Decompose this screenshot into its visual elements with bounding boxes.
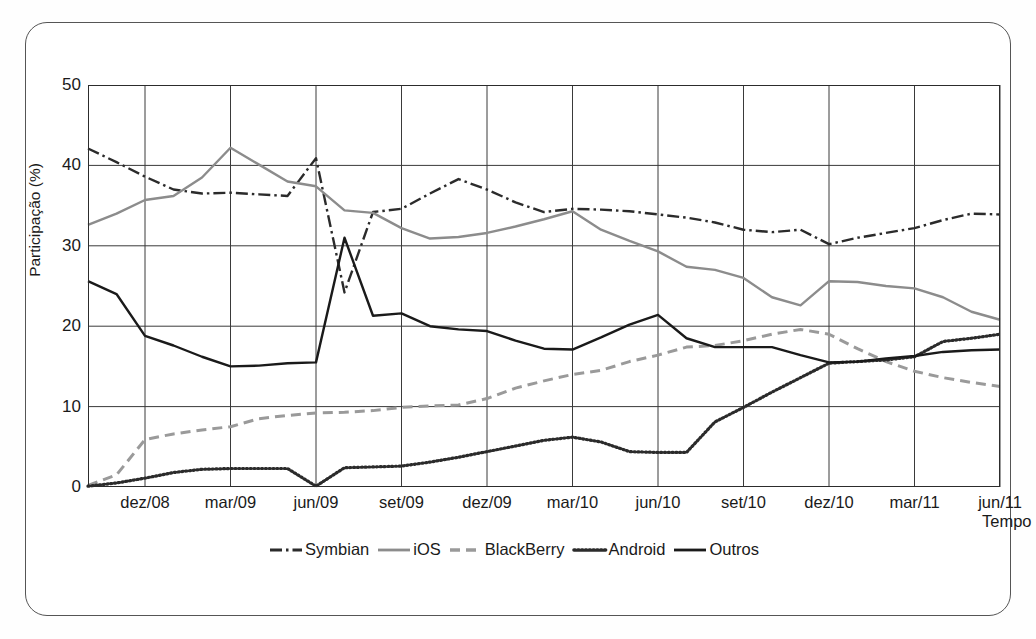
- x-tick-dez-08: dez/08: [120, 493, 170, 512]
- x-tick-mar-10: mar/10: [547, 493, 598, 512]
- legend-item-blackberry[interactable]: BlackBerry: [449, 540, 573, 559]
- y-tick-30: 30: [62, 236, 81, 256]
- legend-item-android[interactable]: Android: [573, 540, 674, 559]
- legend-label-android: Android: [609, 540, 666, 559]
- y-tick-10: 10: [62, 397, 81, 417]
- legend-swatch-android-icon: [573, 543, 607, 557]
- y-tick-20: 20: [62, 316, 81, 336]
- x-tick-dez-09: dez/09: [462, 493, 512, 512]
- legend-label-outros: Outros: [709, 540, 759, 559]
- y-axis-title: Participação (%): [26, 130, 44, 310]
- plot-border: [88, 85, 1000, 487]
- x-tick-jun-11: jun/11: [978, 493, 1022, 512]
- x-axis-title: Tempo: [982, 512, 1032, 531]
- chart-legend: SymbianiOSBlackBerryAndroidOutros: [0, 540, 1036, 559]
- plot-area: 01020304050 dez/08mar/09jun/09set/09dez/…: [88, 85, 1000, 487]
- legend-label-blackberry: BlackBerry: [485, 540, 565, 559]
- x-tick-dez-10: dez/10: [804, 493, 854, 512]
- x-tick-jun-10: jun/10: [636, 493, 681, 512]
- y-tick-40: 40: [62, 155, 81, 175]
- legend-swatch-ios-icon: [377, 543, 411, 557]
- legend-item-ios[interactable]: iOS: [377, 540, 449, 559]
- chart-page: Participação (%) 01020304050 dez/08mar/0…: [0, 0, 1036, 639]
- x-tick-set-09: set/09: [379, 493, 424, 512]
- legend-label-ios: iOS: [413, 540, 441, 559]
- legend-swatch-symbian-icon: [269, 543, 303, 557]
- x-tick-set-10: set/10: [721, 493, 766, 512]
- legend-swatch-blackberry-icon: [449, 543, 483, 557]
- legend-label-symbian: Symbian: [305, 540, 369, 559]
- x-tick-jun-09: jun/09: [294, 493, 339, 512]
- y-tick-0: 0: [72, 477, 81, 497]
- legend-item-outros[interactable]: Outros: [673, 540, 767, 559]
- x-tick-mar-11: mar/11: [889, 493, 939, 512]
- x-tick-mar-09: mar/09: [205, 493, 256, 512]
- legend-swatch-outros-icon: [673, 543, 707, 557]
- y-tick-50: 50: [62, 75, 81, 95]
- legend-item-symbian[interactable]: Symbian: [269, 540, 377, 559]
